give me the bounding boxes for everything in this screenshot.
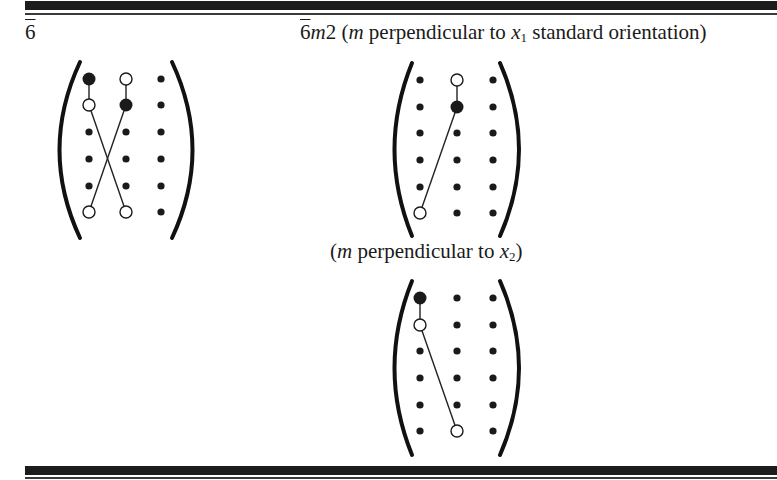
small-dot <box>416 103 423 110</box>
matrix-diagrams <box>0 0 777 480</box>
small-dot <box>416 183 423 190</box>
left-matrix <box>60 62 193 238</box>
small-dot <box>453 183 460 190</box>
open-circle <box>120 206 132 218</box>
small-dot <box>489 156 496 163</box>
connection-line <box>420 325 457 431</box>
right-bracket <box>500 281 519 455</box>
small-dot <box>122 182 129 189</box>
small-dot <box>416 129 423 136</box>
small-dot <box>122 155 129 162</box>
small-dot <box>489 76 496 83</box>
small-dot <box>489 347 496 354</box>
open-circle <box>83 99 95 111</box>
connection-line <box>420 107 457 213</box>
large-filled-dot <box>414 292 427 305</box>
small-dot <box>489 321 496 328</box>
large-filled-dot <box>83 73 96 86</box>
small-dot <box>157 208 164 215</box>
small-dot <box>416 427 423 434</box>
small-dot <box>416 156 423 163</box>
small-dot <box>453 347 460 354</box>
small-dot <box>85 182 92 189</box>
small-dot <box>85 128 92 135</box>
small-dot <box>453 401 460 408</box>
small-dot <box>122 128 129 135</box>
small-dot <box>157 128 164 135</box>
right-bracket <box>500 63 519 236</box>
small-dot <box>489 103 496 110</box>
small-dot <box>416 76 423 83</box>
small-dot <box>453 129 460 136</box>
open-circle <box>451 425 463 437</box>
left-bracket <box>60 62 81 238</box>
open-circle <box>414 207 426 219</box>
small-dot <box>157 182 164 189</box>
open-circle <box>414 319 426 331</box>
small-dot <box>416 401 423 408</box>
small-dot <box>416 374 423 381</box>
small-dot <box>489 209 496 216</box>
open-circle <box>83 206 95 218</box>
small-dot <box>453 156 460 163</box>
small-dot <box>85 155 92 162</box>
small-dot <box>489 294 496 301</box>
lower-right-matrix <box>395 281 520 455</box>
small-dot <box>453 294 460 301</box>
small-dot <box>489 183 496 190</box>
right-bracket <box>172 62 193 238</box>
open-circle <box>120 73 132 85</box>
small-dot <box>453 321 460 328</box>
small-dot <box>157 101 164 108</box>
small-dot <box>489 129 496 136</box>
left-bracket <box>395 281 413 455</box>
small-dot <box>453 374 460 381</box>
small-dot <box>489 401 496 408</box>
small-dot <box>489 374 496 381</box>
small-dot <box>157 75 164 82</box>
open-circle <box>451 74 463 86</box>
bottom-rule-thick <box>25 466 777 475</box>
large-filled-dot <box>120 99 133 112</box>
small-dot <box>489 427 496 434</box>
left-bracket <box>395 63 413 236</box>
small-dot <box>416 347 423 354</box>
large-filled-dot <box>451 101 464 114</box>
upper-right-matrix <box>395 63 520 236</box>
small-dot <box>157 155 164 162</box>
small-dot <box>453 209 460 216</box>
bottom-rule-thin <box>25 477 777 479</box>
